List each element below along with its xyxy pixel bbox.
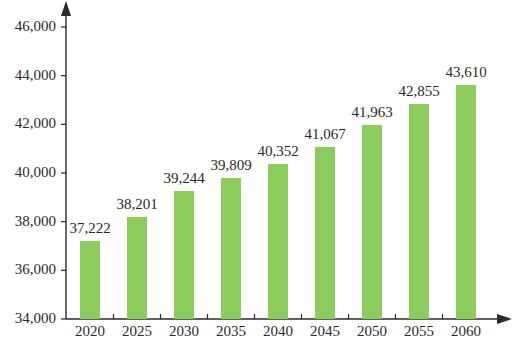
y-tick-label: 46,000 [0,19,56,34]
bar-value-label: 41,067 [295,127,355,142]
bar-2055 [409,104,429,319]
bar-value-label: 39,809 [201,158,261,173]
bar-value-label: 41,963 [342,105,402,120]
bar-value-label: 43,610 [436,65,496,80]
x-tick-label: 2035 [208,324,255,339]
y-tick-label: 44,000 [0,68,56,83]
bar-value-label: 40,352 [248,144,308,159]
chart-axes [0,0,514,353]
x-tick-label: 2030 [161,324,208,339]
y-axis-arrow-icon [61,1,71,16]
y-tick-label: 40,000 [0,165,56,180]
bar-2040 [268,164,288,319]
bar-2060 [456,85,476,319]
y-tick-label: 42,000 [0,116,56,131]
bar-value-label: 37,222 [60,221,120,236]
bar-2020 [80,241,100,319]
x-axis-arrow-icon [497,314,512,324]
bar-2030 [174,191,194,319]
bar-value-label: 42,855 [389,84,449,99]
y-tick-label: 34,000 [0,311,56,326]
y-tick-label: 38,000 [0,214,56,229]
bar-2025 [127,217,147,319]
bar-value-label: 39,244 [154,171,214,186]
x-tick-label: 2040 [255,324,302,339]
x-tick-label: 2050 [349,324,396,339]
bar-chart: 34,00036,00038,00040,00042,00044,00046,0… [0,0,514,353]
x-tick-label: 2045 [302,324,349,339]
x-tick-label: 2020 [67,324,114,339]
bar-2050 [362,125,382,319]
x-tick-label: 2025 [114,324,161,339]
bar-2045 [315,147,335,319]
x-tick-label: 2055 [396,324,443,339]
bar-value-label: 38,201 [107,197,167,212]
bar-2035 [221,178,241,319]
y-tick-label: 36,000 [0,262,56,277]
x-tick-label: 2060 [443,324,490,339]
